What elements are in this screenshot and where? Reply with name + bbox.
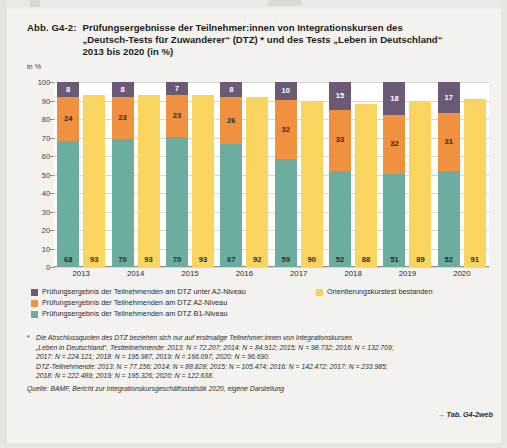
dtz-stacked-bar[interactable]: 82667 (220, 82, 242, 267)
bar-value-label: 8 (66, 86, 70, 94)
legend-column-right: Orientierungskurstest bestanden (316, 288, 432, 318)
legend-item: Prüfungsergebnis der Teilnehmenden am DT… (31, 299, 316, 307)
bar-value-label: 52 (445, 256, 453, 264)
bar-segment-under_a2: 10 (275, 82, 297, 100)
y-axis-tick-label: 20 (42, 226, 50, 235)
scan-artifact-center (268, 0, 302, 6)
bar-segment-orientation: 91 (464, 99, 486, 267)
y-axis-tick-label: 70 (42, 133, 50, 142)
bar-segment-b1: 52 (329, 171, 351, 267)
figure-number: Abb. G4-2: (27, 22, 77, 33)
legend-item-label: Prüfungsergebnis der Teilnehmenden am DT… (42, 310, 228, 318)
footnote-line-4: DTZ-Teilnehmende: 2013: N = 77.156; 2014… (36, 362, 489, 372)
legend-swatch-icon (316, 289, 323, 296)
x-axis-label-2018: 2018 (326, 269, 380, 282)
footnote-body: Die Abschlussquoten des DTZ beziehen sic… (36, 333, 489, 381)
y-axis-tick-label: 60 (42, 152, 50, 161)
bar-value-label: 33 (336, 136, 344, 144)
bar-value-label: 70 (118, 256, 126, 264)
bar-segment-a2: 23 (112, 97, 134, 139)
bar-value-label: 51 (390, 256, 398, 264)
y-axis-tick-mark (50, 267, 54, 268)
x-axis-label-2020: 2020 (435, 269, 489, 282)
bar-segment-b1: 70 (112, 139, 134, 267)
bar-segment-under_a2: 8 (57, 82, 79, 97)
bar-segment-b1: 70 (166, 137, 188, 267)
bar-value-label: 89 (416, 256, 424, 264)
legend-item: Prüfungsergebnis der Teilnehmenden am DT… (31, 310, 316, 318)
bar-segment-a2: 32 (383, 115, 405, 174)
bar-segment-orientation: 93 (83, 95, 105, 267)
bar-value-label: 52 (336, 256, 344, 264)
orientation-test-bar[interactable]: 93 (192, 95, 214, 267)
dtz-stacked-bar[interactable]: 82370 (112, 82, 134, 267)
bar-segment-b1: 68 (57, 141, 79, 267)
bar-value-label: 92 (253, 256, 261, 264)
bar-value-label: 18 (390, 95, 398, 103)
bar-value-label: 67 (227, 256, 235, 264)
bar-value-label: 15 (336, 92, 344, 100)
bar-segment-a2: 33 (329, 110, 351, 171)
bar-value-label: 32 (390, 140, 398, 148)
footnote-line-3: 2017: N = 224.121; 2018: N = 195.987, 20… (36, 352, 489, 362)
orientation-test-bar[interactable]: 93 (83, 95, 105, 267)
bar-value-label: 90 (307, 256, 315, 264)
figure-page: Abb. G4-2: Prüfungsergebnisse der Teilne… (0, 0, 507, 448)
dtz-stacked-bar[interactable]: 173152 (438, 82, 460, 267)
orientation-test-bar[interactable]: 92 (246, 97, 268, 267)
legend-item: Prüfungsergebnis der Teilnehmenden am DT… (31, 288, 316, 296)
page-right-edge (501, 0, 507, 448)
title-line-1: Prüfungsergebnisse der Teilnehmer:innen … (83, 22, 443, 34)
bar-group-2018: 15335288 (326, 82, 380, 267)
footnote-marker: * (27, 333, 36, 343)
legend-item-label: Prüfungsergebnis der Teilnehmenden am DT… (42, 288, 246, 296)
legend: Prüfungsergebnis der Teilnehmenden am DT… (31, 288, 491, 318)
legend-swatch-icon (31, 289, 38, 296)
orientation-test-bar[interactable]: 89 (409, 102, 431, 267)
source-line: Quelle: BAMF, Bericht zur Integrationsku… (27, 384, 489, 394)
table-reference-link[interactable]: → Tab. G4-2web (437, 410, 493, 419)
bar-value-label: 32 (281, 126, 289, 134)
bar-value-label: 88 (362, 256, 370, 264)
bar-segment-under_a2: 17 (438, 82, 460, 113)
bar-segment-a2: 24 (57, 97, 79, 141)
bar-segment-b1: 67 (220, 144, 242, 267)
bar-segment-under_a2: 8 (220, 82, 242, 97)
y-axis-tick-label: 50 (42, 170, 50, 179)
bar-segment-under_a2: 18 (383, 82, 405, 115)
bar-value-label: 59 (281, 256, 289, 264)
bar-value-label: 70 (173, 256, 181, 264)
orientation-test-bar[interactable]: 93 (138, 95, 160, 267)
bar-segment-orientation: 88 (355, 104, 377, 267)
legend-item-label: Prüfungsergebnis der Teilnehmenden am DT… (42, 299, 227, 307)
bar-segment-b1: 52 (438, 171, 460, 267)
bar-groups: 8246893823709372370938266792103259901533… (54, 82, 489, 267)
footnotes: * Die Abschlussquoten des DTZ beziehen s… (27, 333, 489, 394)
orientation-test-bar[interactable]: 88 (355, 104, 377, 267)
orientation-test-bar[interactable]: 91 (464, 99, 486, 267)
dtz-stacked-bar[interactable]: 82468 (57, 82, 79, 267)
legend-swatch-icon (31, 300, 38, 307)
legend-swatch-icon (31, 311, 38, 318)
bar-value-label: 93 (144, 256, 152, 264)
bar-segment-a2: 31 (438, 113, 460, 170)
dtz-stacked-bar[interactable]: 183251 (383, 82, 405, 267)
bar-segment-under_a2: 8 (112, 82, 134, 97)
bar-segment-a2: 32 (275, 100, 297, 159)
y-axis-tick-label: 80 (42, 115, 50, 124)
dtz-stacked-bar[interactable]: 103259 (275, 82, 297, 267)
page-title: Prüfungsergebnisse der Teilnehmer:innen … (83, 22, 443, 59)
bar-value-label: 8 (229, 86, 233, 94)
dtz-stacked-bar[interactable]: 72370 (166, 82, 188, 267)
bar-value-label: 31 (445, 138, 453, 146)
figure-title-block: Abb. G4-2: Prüfungsergebnisse der Teilne… (27, 22, 487, 59)
orientation-test-bar[interactable]: 90 (301, 101, 323, 268)
x-axis-label-2013: 2013 (54, 269, 108, 282)
bar-segment-under_a2: 15 (329, 82, 351, 110)
bar-segment-b1: 51 (383, 174, 405, 267)
bar-value-label: 17 (445, 94, 453, 102)
bar-group-2013: 8246893 (54, 82, 108, 267)
bar-segment-b1: 59 (275, 159, 297, 267)
bar-value-label: 23 (173, 112, 181, 120)
dtz-stacked-bar[interactable]: 153352 (329, 82, 351, 267)
